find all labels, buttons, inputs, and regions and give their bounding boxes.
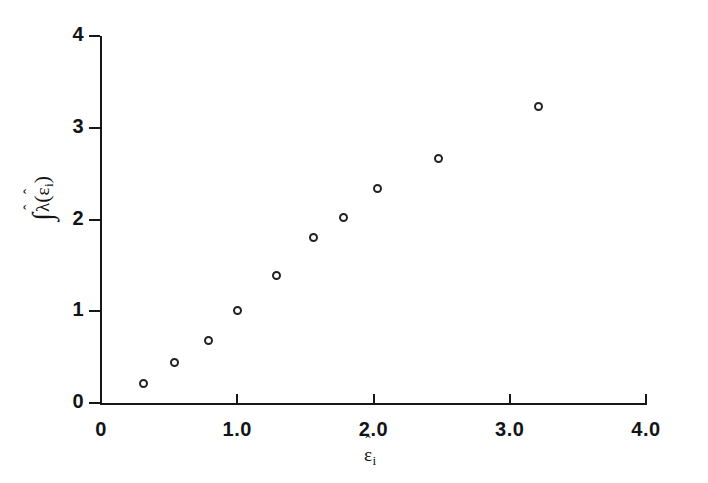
data-point	[139, 379, 148, 388]
data-point	[309, 233, 318, 242]
y-axis-title: ∫ˆλ(ˆεi)	[30, 113, 57, 283]
x-tick-label: 2.0	[339, 418, 409, 441]
x-axis-title-symbol: ˆε	[364, 444, 372, 466]
x-axis-subscript: i	[372, 453, 376, 468]
scatter-plot-area: 01234 01.02.03.04.0 ˆεi ∫ˆλ(ˆεi)	[0, 0, 708, 483]
figure-canvas: 01234 01.02.03.04.0 ˆεi ∫ˆλ(ˆεi)	[0, 0, 708, 483]
y-tick-mark	[89, 402, 100, 404]
data-point	[272, 271, 281, 280]
data-point	[339, 213, 348, 222]
x-axis-hat-accent: ˆ	[365, 434, 370, 450]
x-tick-label: 0	[66, 418, 136, 441]
x-tick-mark	[645, 394, 647, 405]
y-tick-mark	[89, 35, 100, 37]
y-tick-label: 0	[36, 390, 84, 414]
y-tick-label-text: 1	[44, 298, 84, 321]
x-tick-label: 3.0	[475, 418, 545, 441]
x-axis-title: ˆεi	[310, 444, 430, 469]
data-point	[170, 358, 179, 367]
y-tick-mark	[89, 219, 100, 221]
y-tick-label: 1	[36, 298, 84, 322]
y-axis-lambda-hat-accent: ˆ	[22, 205, 38, 210]
x-tick-mark	[373, 394, 375, 405]
x-tick-mark	[100, 394, 102, 405]
y-tick-mark	[89, 310, 100, 312]
x-tick-mark	[236, 394, 238, 405]
data-point	[534, 102, 543, 111]
y-axis-line	[100, 36, 102, 405]
y-axis-epsilon-symbol: ˆε	[32, 187, 54, 195]
y-tick-mark	[89, 127, 100, 129]
y-axis-close-paren: )	[30, 176, 54, 183]
y-axis-epsilon-hat-accent: ˆ	[22, 189, 38, 194]
y-tick-label: 4	[36, 23, 84, 47]
data-point	[233, 306, 242, 315]
x-tick-label: 1.0	[202, 418, 272, 441]
x-tick-label: 4.0	[611, 418, 681, 441]
data-point	[204, 336, 213, 345]
y-tick-label-text: 0	[44, 390, 84, 413]
data-point	[434, 154, 443, 163]
data-point	[373, 184, 382, 193]
integral-icon: ∫	[27, 212, 58, 221]
y-axis-lambda-symbol: ˆλ	[32, 203, 54, 212]
x-tick-mark	[509, 394, 511, 405]
y-tick-label-text: 4	[44, 23, 84, 46]
